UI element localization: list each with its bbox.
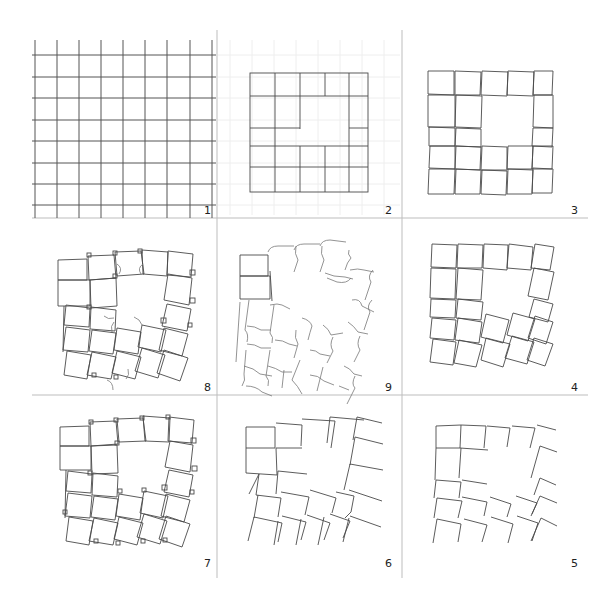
panel-6-fragments bbox=[246, 417, 383, 545]
panel-1-grid bbox=[32, 40, 216, 218]
panel-label-6: 6 bbox=[385, 557, 392, 570]
panel-dividers bbox=[32, 30, 588, 578]
panel-9-curved-brackets bbox=[236, 240, 374, 404]
panel-9-fragments bbox=[240, 255, 272, 301]
panel-label-5: 5 bbox=[571, 557, 578, 570]
panel-label-3: 3 bbox=[571, 204, 578, 217]
panel-label-8: 8 bbox=[204, 381, 211, 394]
panel-label-2: 2 bbox=[385, 204, 392, 217]
nine-panel-diagram: 1 2 3 8 9 4 7 6 5 bbox=[0, 0, 616, 599]
panel-8-tiles bbox=[58, 249, 195, 381]
panel-label-4: 4 bbox=[571, 381, 578, 394]
panel-label-1: 1 bbox=[204, 204, 211, 217]
diagram-canvas bbox=[0, 0, 616, 599]
panel-4-tiles bbox=[430, 244, 554, 367]
panel-7-tiles bbox=[60, 415, 197, 547]
panel-label-9: 9 bbox=[385, 381, 392, 394]
panel-2-tiles bbox=[250, 73, 368, 192]
panel-5-fragments bbox=[433, 425, 557, 543]
panel-2-faint-grid bbox=[218, 40, 400, 215]
panel-label-7: 7 bbox=[204, 557, 211, 570]
panel-3-tiles bbox=[428, 71, 553, 195]
